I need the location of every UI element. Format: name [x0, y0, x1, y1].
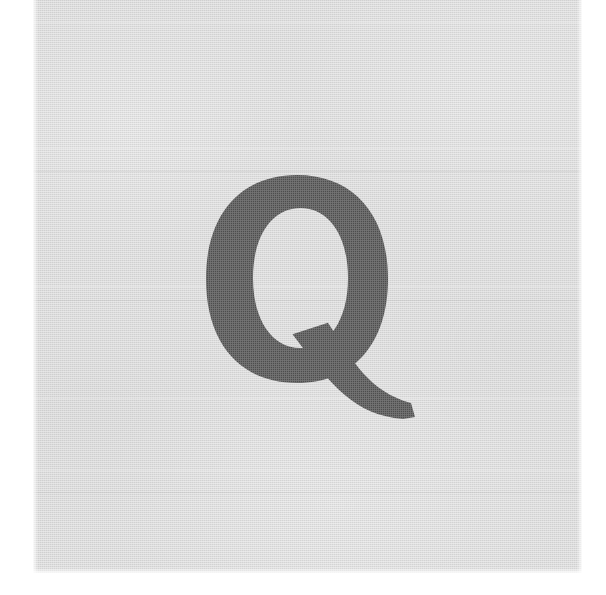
letter-q-artwork — [33, 0, 582, 573]
glyph-q — [33, 0, 582, 573]
image-canvas: Q — [0, 0, 606, 595]
scanned-paper-sheet — [33, 0, 582, 573]
